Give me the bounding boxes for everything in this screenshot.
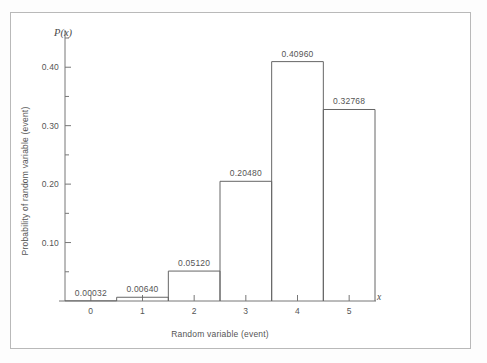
x-axis-tick-label: 0 [76,306,106,316]
chart-label-layer: 0.100.200.300.400123450.000320.006400.05… [0,0,487,363]
x-axis-tick-label: 3 [231,306,261,316]
y-axis-tick-label: 0.30 [25,121,59,131]
x-axis-tick-label: 5 [334,306,364,316]
y-axis-tick-label: 0.20 [25,179,59,189]
bar-value-label: 0.00640 [113,284,173,294]
x-axis-tick-label: 4 [283,306,313,316]
figure-container: Probability of random variable (event) R… [0,0,487,363]
bar-value-label: 0.05120 [164,258,224,268]
bar-value-label: 0.40960 [268,49,328,59]
x-axis-tick-label: 2 [179,306,209,316]
x-axis-tick-label: 1 [128,306,158,316]
bar-value-label: 0.32768 [319,96,379,106]
y-axis-tick-label: 0.10 [25,238,59,248]
y-axis-tick-label: 0.40 [25,62,59,72]
bar-value-label: 0.20480 [216,168,276,178]
